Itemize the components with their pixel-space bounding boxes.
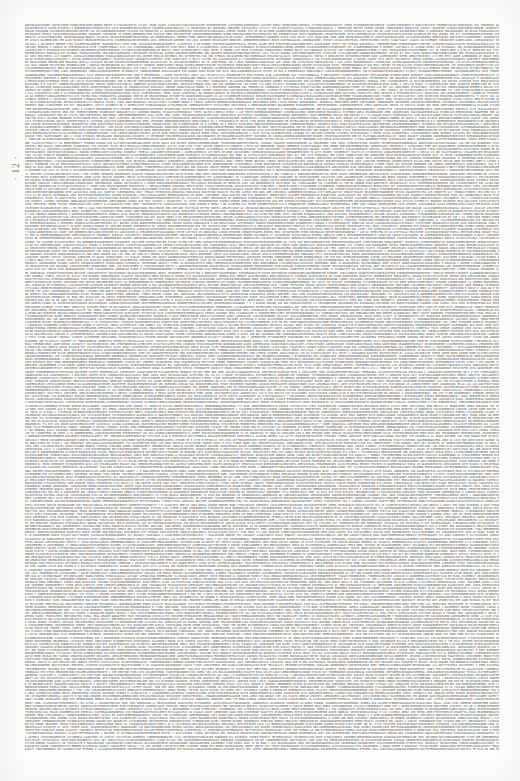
numeric-body-text: 6962904994134905 79975210665 54808133381… xyxy=(25,24,499,750)
document-page: · 12 · 6962904994134905 79975210665 5480… xyxy=(0,0,520,781)
